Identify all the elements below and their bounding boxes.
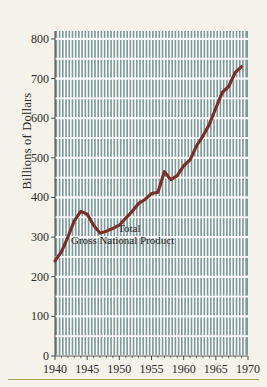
grid-line-vertical <box>80 31 82 356</box>
grid-line-vertical <box>57 31 59 356</box>
y-tick-label: 800 <box>3 31 49 46</box>
grid-line-vertical <box>189 31 191 356</box>
grid-line-vertical <box>118 31 120 356</box>
y-axis-label: Billions of Dollars <box>20 93 35 190</box>
grid-line-vertical <box>205 31 207 356</box>
grid-line-horizontal <box>55 137 248 139</box>
grid-line-vertical <box>89 31 91 356</box>
grid-line-vertical <box>176 31 178 356</box>
grid-line-horizontal <box>55 276 248 278</box>
grid-line-vertical <box>141 31 143 356</box>
grid-line-horizontal <box>55 216 248 218</box>
grid-line-horizontal <box>55 38 248 40</box>
grid-line-horizontal <box>55 196 248 198</box>
grid-line-vertical <box>122 31 124 356</box>
grid-line-vertical <box>64 31 66 356</box>
grid-line-vertical <box>234 31 236 356</box>
grid-line-vertical <box>147 31 149 356</box>
grid-line-vertical <box>199 31 201 356</box>
grid-line-vertical <box>138 31 140 356</box>
grid-line-vertical <box>70 31 72 356</box>
grid-line-vertical <box>77 31 79 356</box>
grid-line-vertical <box>83 31 85 356</box>
grid-line-horizontal <box>55 177 248 179</box>
grid-line-vertical <box>144 31 146 356</box>
grid-line-horizontal <box>55 157 248 159</box>
grid-line-vertical <box>86 31 88 356</box>
grid-line-horizontal <box>55 256 248 258</box>
grid-line-vertical <box>115 31 117 356</box>
grid-line-vertical <box>224 31 226 356</box>
grid-line-vertical <box>173 31 175 356</box>
y-tick-label: 500 <box>3 150 49 165</box>
grid-line-vertical <box>212 31 214 356</box>
footer-rule <box>8 379 259 380</box>
y-tick-label: 400 <box>3 190 49 205</box>
grid-line-horizontal <box>55 58 248 60</box>
grid-line-horizontal <box>55 77 248 79</box>
grid-line-horizontal <box>55 315 248 317</box>
gnp-chart-figure: Billions of Dollars 01002003004005006007… <box>0 0 267 387</box>
grid-line-vertical <box>99 31 101 356</box>
grid-line-vertical <box>186 31 188 356</box>
grid-line-vertical <box>67 31 69 356</box>
grid-line-vertical <box>128 31 130 356</box>
grid-line-vertical <box>241 31 243 356</box>
y-tick-label: 600 <box>3 111 49 126</box>
series-annotation-line-2: Gross National Product <box>71 234 174 246</box>
grid-line-vertical <box>244 31 246 356</box>
grid-line-vertical <box>60 31 62 356</box>
grid-line-vertical <box>208 31 210 356</box>
grid-line-vertical <box>105 31 107 356</box>
grid-line-vertical <box>237 31 239 356</box>
grid-line-vertical <box>218 31 220 356</box>
grid-line-vertical <box>93 31 95 356</box>
grid-line-vertical <box>125 31 127 356</box>
grid-line-vertical <box>183 31 185 356</box>
x-tick-label: 1970 <box>225 362 267 377</box>
y-tick-label: 100 <box>3 309 49 324</box>
y-tick-label: 700 <box>3 71 49 86</box>
grid-line-vertical <box>96 31 98 356</box>
grid-line-vertical <box>196 31 198 356</box>
y-tick-label: 300 <box>3 230 49 245</box>
grid-line-vertical <box>112 31 114 356</box>
grid-line-vertical <box>134 31 136 356</box>
grid-line-vertical <box>170 31 172 356</box>
grid-line-vertical <box>221 31 223 356</box>
grid-line-vertical <box>131 31 133 356</box>
grid-line-vertical <box>163 31 165 356</box>
grid-line-vertical <box>202 31 204 356</box>
grid-line-horizontal <box>55 296 248 298</box>
series-annotation-line-1: Total <box>118 222 140 234</box>
grid-line-horizontal <box>55 335 248 337</box>
grid-line-vertical <box>179 31 181 356</box>
grid-line-horizontal <box>55 117 248 119</box>
grid-line-vertical <box>102 31 104 356</box>
grid-line-vertical <box>73 31 75 356</box>
grid-line-vertical <box>109 31 111 356</box>
grid-line-vertical <box>167 31 169 356</box>
grid-line-vertical <box>192 31 194 356</box>
grid-line-vertical <box>215 31 217 356</box>
y-tick-label: 200 <box>3 269 49 284</box>
grid-line-vertical <box>228 31 230 356</box>
grid-line-vertical <box>160 31 162 356</box>
